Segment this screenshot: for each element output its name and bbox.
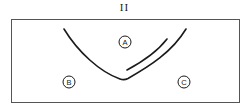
- region-c-label: C: [181, 78, 187, 87]
- outer-curve: [64, 29, 186, 80]
- region-c-marker: C: [178, 76, 190, 88]
- region-b-label: B: [66, 78, 71, 87]
- region-a-label: A: [122, 38, 127, 47]
- inner-curve: [127, 39, 167, 70]
- region-b-marker: B: [63, 76, 75, 88]
- region-a-marker: A: [119, 36, 131, 48]
- diagram-frame: [12, 20, 240, 103]
- diagram-canvas: A B C: [0, 0, 249, 107]
